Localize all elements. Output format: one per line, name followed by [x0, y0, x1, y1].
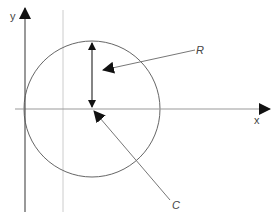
- center-label: C: [172, 199, 180, 211]
- radius-leader-arrow: [103, 50, 195, 70]
- x-axis-label: x: [254, 114, 260, 126]
- circle-diagram: y x R C: [0, 0, 276, 219]
- y-axis-label: y: [10, 10, 16, 22]
- radius-label: R: [196, 44, 204, 56]
